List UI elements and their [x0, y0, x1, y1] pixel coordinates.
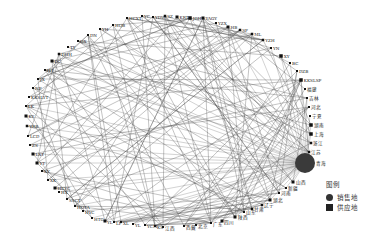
node-label: 江苏	[311, 149, 321, 156]
node-label: LCD	[30, 134, 40, 139]
square-icon	[26, 125, 29, 128]
node-label: LXT	[36, 152, 45, 157]
legend: 图例 销售地 供应地	[326, 179, 376, 221]
node-label: 宁夏	[312, 113, 322, 119]
node-32: 陕西	[234, 214, 248, 221]
node-label: YC	[143, 14, 150, 19]
square-icon	[309, 132, 313, 136]
node-21: 湖南	[309, 122, 324, 129]
square-icon	[152, 16, 154, 18]
square-icon	[243, 211, 245, 213]
square-icon	[32, 87, 34, 89]
square-icon	[251, 33, 254, 36]
square-icon	[144, 224, 146, 226]
square-icon	[25, 115, 28, 118]
square-icon	[292, 181, 295, 184]
square-icon	[188, 16, 192, 20]
node-label: HCXT	[129, 16, 142, 21]
node-4: KRT	[176, 15, 189, 20]
node-42: LF	[113, 221, 122, 226]
node-label: HTG	[94, 217, 104, 222]
node-label: 山西	[296, 179, 306, 186]
square-icon	[210, 222, 212, 224]
square-icon	[176, 16, 179, 19]
square-icon	[309, 115, 311, 117]
node-label: SSCT	[69, 198, 81, 203]
legend-label-sales: 销售地	[337, 192, 358, 202]
node-label: 江西	[165, 225, 175, 232]
node-label: YCM	[146, 224, 158, 229]
square-icon	[54, 187, 57, 190]
square-icon	[308, 151, 311, 154]
node-43: YL	[104, 220, 113, 225]
square-icon	[25, 105, 27, 107]
node-label: 山东	[246, 209, 256, 216]
square-icon	[215, 22, 217, 24]
node-0: HCXT	[126, 16, 142, 21]
node-label: YH	[101, 27, 109, 32]
node-label: LK	[28, 104, 35, 109]
node-label: DHH	[61, 52, 72, 57]
node-label: JX	[39, 77, 45, 82]
node-label: HCYC	[58, 186, 71, 191]
square-icon	[285, 187, 287, 189]
square-icon	[91, 217, 93, 219]
node-18: 吉林	[306, 95, 319, 102]
square-icon	[37, 78, 39, 80]
node-20: 宁夏	[309, 113, 322, 119]
legend-item-sales: 销售地	[326, 192, 376, 202]
node-64: DHH	[58, 52, 73, 57]
square-icon	[296, 70, 298, 72]
node-label: ML	[254, 32, 261, 37]
node-label: YZH	[264, 38, 275, 43]
square-icon	[29, 144, 31, 146]
node-label: 河北	[311, 104, 321, 111]
square-icon	[234, 216, 237, 219]
node-16: KKSLSP	[299, 78, 321, 83]
node-label: LF	[116, 221, 122, 226]
node-45: HYC	[82, 210, 95, 215]
node-55: LCD	[27, 134, 40, 139]
node-7: YZX	[215, 21, 227, 26]
square-icon	[41, 170, 43, 172]
node-label: 辽宁	[264, 202, 274, 209]
square-icon	[202, 17, 205, 20]
node-label: NP	[35, 86, 42, 91]
square-icon	[113, 221, 115, 223]
node-51: XY	[41, 169, 50, 174]
node-label: 吉林	[309, 95, 319, 102]
node-47: SSCT	[66, 198, 81, 203]
square-icon	[58, 53, 61, 56]
node-label: ZS	[32, 143, 38, 148]
square-icon	[51, 60, 54, 63]
node-label: XY	[284, 54, 290, 59]
square-icon	[82, 210, 84, 212]
node-label: 河南	[281, 190, 291, 196]
square-icon	[308, 106, 310, 108]
node-label: 福建	[307, 86, 317, 93]
node-46: HOTA	[74, 205, 91, 210]
node-label: HQB	[115, 23, 125, 28]
square-icon	[126, 17, 128, 19]
node-44: HTG	[91, 217, 104, 222]
square-icon	[36, 162, 39, 165]
square-icon	[309, 123, 313, 127]
legend-title: 图例	[326, 179, 376, 189]
square-icon	[270, 47, 272, 49]
square-icon	[112, 24, 114, 26]
node-label: YN	[272, 46, 280, 51]
node-label: HB	[231, 25, 238, 30]
square-icon	[289, 62, 291, 64]
square-icon	[132, 223, 134, 225]
square-icon	[183, 225, 185, 227]
node-22: 上海	[309, 131, 324, 138]
node-label: KS	[157, 225, 163, 230]
square-icon	[87, 34, 89, 36]
circle-icon	[295, 153, 315, 173]
node-40: YL	[132, 223, 141, 228]
node-62: HT	[44, 68, 54, 73]
node-label: 广东	[213, 221, 223, 228]
node-13: XY	[279, 54, 289, 59]
square-icon	[279, 54, 283, 58]
square-icon	[227, 26, 230, 29]
